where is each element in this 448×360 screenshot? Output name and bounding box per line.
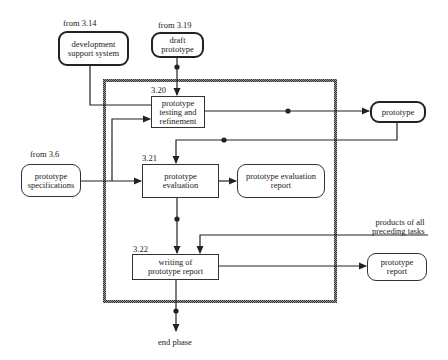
source-label-3-6: from 3.6	[30, 150, 59, 159]
input-prototype-specifications[interactable]: prototype specifications	[21, 164, 81, 197]
source-label-3-19: from 3.19	[158, 21, 192, 30]
input-draft-prototype[interactable]: draft prototype	[151, 32, 204, 58]
task-number-3-22: 3.22	[133, 245, 148, 254]
edge-prototype-to-3-21	[176, 122, 397, 163]
output-prototype-evaluation-report[interactable]: prototype evaluation report	[237, 164, 325, 198]
task-3-22-writing-report[interactable]: writing of prototype report	[132, 254, 219, 280]
input-development-support-system[interactable]: development support system	[58, 31, 129, 66]
source-label-3-14: from 3.14	[63, 19, 97, 28]
output-prototype-report[interactable]: prototype report	[367, 253, 427, 281]
edge-devsupport-to-3-20	[90, 66, 151, 105]
edge-preceding-to-3-22	[200, 235, 428, 253]
input-preceding-products: products of all preceding tasks	[372, 218, 425, 236]
task-number-3-20: 3.20	[151, 86, 166, 95]
task-number-3-21: 3.21	[142, 154, 157, 163]
task-3-20-prototype-testing[interactable]: prototype testing and refinement	[151, 96, 205, 128]
terminal-end-phase: end phase	[158, 338, 192, 347]
task-3-21-prototype-evaluation[interactable]: prototype evaluation	[142, 164, 219, 198]
output-prototype[interactable]: prototype	[370, 101, 426, 123]
